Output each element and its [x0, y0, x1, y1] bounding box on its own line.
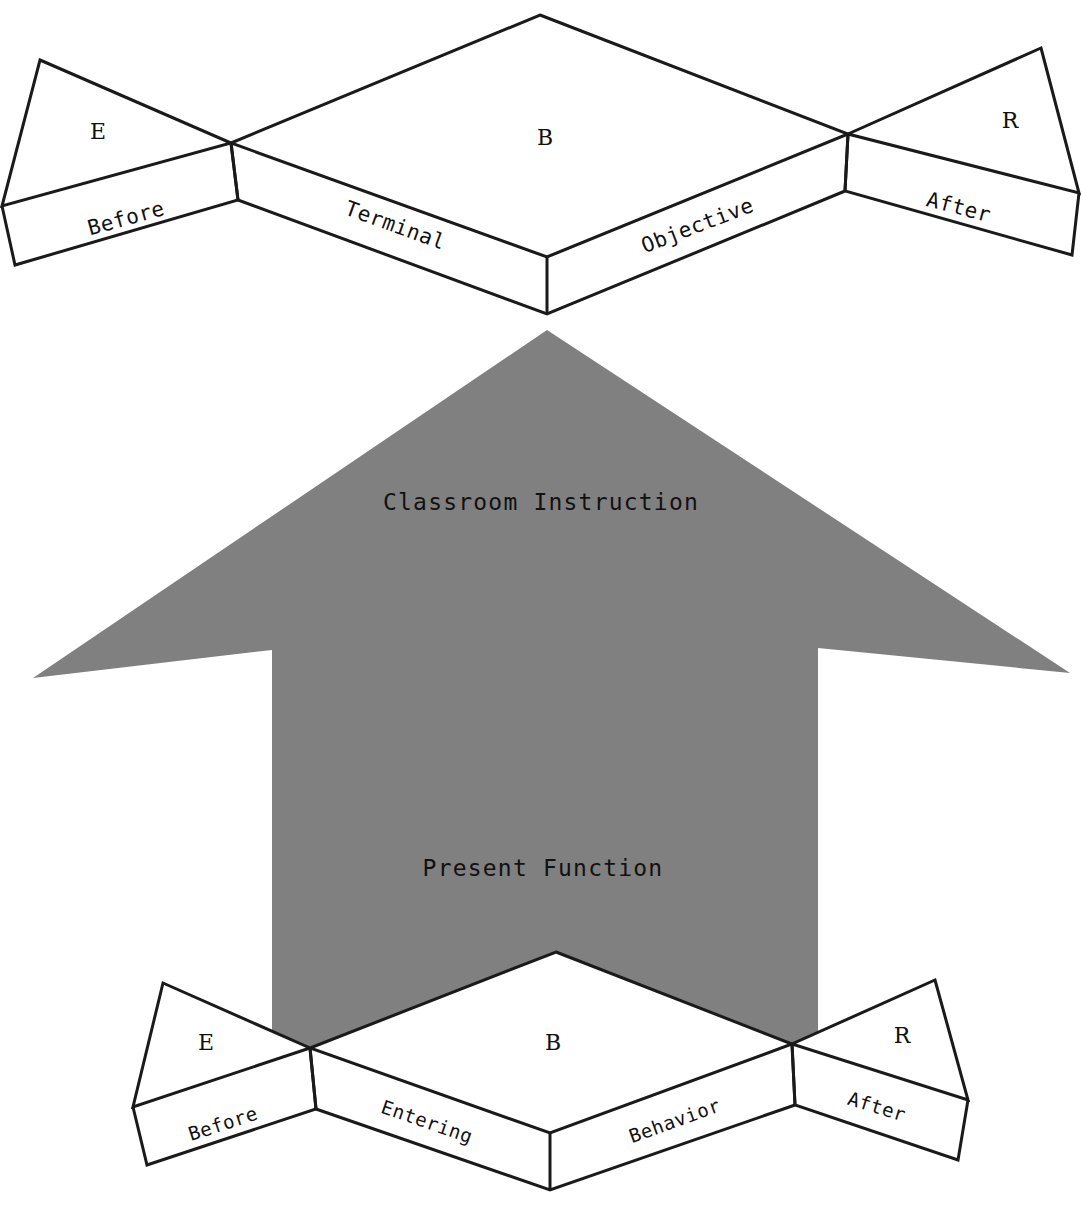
diagram-root: E Before B Terminal Objective R After Cl… — [0, 0, 1082, 1212]
bottom-center-top-label: B — [545, 1030, 561, 1055]
bottom-right-wing-label: R — [894, 1023, 912, 1048]
top-block-group: E Before B Terminal Objective R After — [2, 15, 1079, 314]
top-left-wing-label: E — [90, 119, 106, 144]
bottom-left-wing-label: E — [198, 1030, 214, 1055]
diagram-canvas: E Before B Terminal Objective R After Cl… — [0, 0, 1082, 1212]
bottom-block-group: E Before B Entering Behavior R After — [133, 952, 968, 1190]
top-right-wing-label: R — [1002, 108, 1020, 133]
arrow-lower-label: Present Function — [423, 855, 664, 881]
top-center-top-label: B — [537, 125, 553, 150]
arrow-upper-label: Classroom Instruction — [383, 489, 699, 515]
